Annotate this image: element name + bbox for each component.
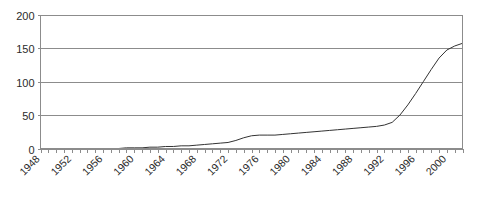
y-axis-label-50: 50 xyxy=(22,110,34,122)
y-axis-label-150: 150 xyxy=(16,43,34,55)
x-axis-label-1980: 1980 xyxy=(267,152,292,177)
plot-frame xyxy=(41,15,463,149)
y-axis-labels: 050100150200 xyxy=(16,10,34,156)
x-axis-label-1956: 1956 xyxy=(79,152,104,177)
line-chart: 050100150200 194819521956196019641968197… xyxy=(0,0,479,199)
x-axis-label-1984: 1984 xyxy=(298,152,323,177)
y-axis-label-200: 200 xyxy=(16,10,34,22)
x-axis-label-1964: 1964 xyxy=(142,152,167,177)
series-line-1 xyxy=(41,43,463,148)
gridlines xyxy=(38,16,463,150)
chart-canvas: 050100150200 194819521956196019641968197… xyxy=(0,0,479,199)
x-axis-label-1968: 1968 xyxy=(173,152,198,177)
x-axis-label-1960: 1960 xyxy=(111,152,136,177)
x-axis-label-2000: 2000 xyxy=(423,152,448,177)
x-axis-label-1972: 1972 xyxy=(204,152,229,177)
x-axis-label-1948: 1948 xyxy=(17,152,42,177)
x-axis-label-1976: 1976 xyxy=(236,152,261,177)
x-axis-label-1996: 1996 xyxy=(392,152,417,177)
data-series xyxy=(41,43,463,148)
x-axis-labels: 1948195219561960196419681972197619801984… xyxy=(17,152,448,177)
x-axis-label-1992: 1992 xyxy=(361,152,386,177)
x-axis-label-1952: 1952 xyxy=(48,152,73,177)
x-axis-label-1988: 1988 xyxy=(330,152,355,177)
y-axis-label-100: 100 xyxy=(16,77,34,89)
